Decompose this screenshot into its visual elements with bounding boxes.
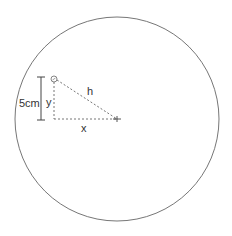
dashed-triangle <box>54 80 117 119</box>
hypotenuse-label: h <box>87 85 93 97</box>
horizontal-leg-label: x <box>81 122 87 134</box>
diagram-canvas: 5cm y x h <box>0 0 232 236</box>
diagram-svg: 5cm y x h <box>0 0 232 236</box>
height-measure-label: 5cm <box>19 97 40 109</box>
vertical-leg-label: y <box>46 96 52 108</box>
